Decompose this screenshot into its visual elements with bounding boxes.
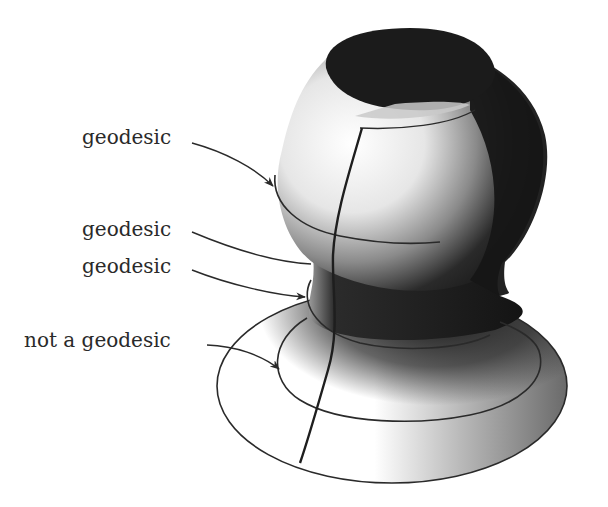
label-geodesic-neck-top: geodesic [82,219,171,239]
label-geodesic-neck: geodesic [82,256,171,276]
arrow-label-3 [192,270,305,297]
label-geodesic-bulb: geodesic [82,127,171,147]
bulb [278,28,548,296]
label-not-a-geodesic: not a geodesic [24,330,171,350]
arrow-label-1 [192,143,273,186]
